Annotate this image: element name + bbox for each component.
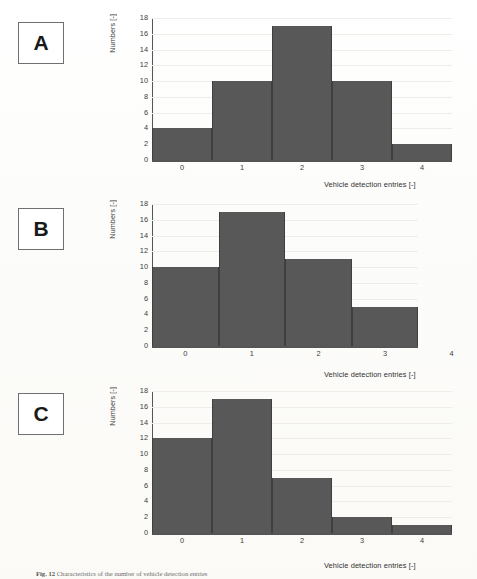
- x-tick-label: 4: [392, 536, 452, 545]
- y-tick-label: 2: [144, 141, 148, 148]
- histogram-bar: [212, 399, 272, 533]
- x-tick-label: 2: [272, 536, 332, 545]
- x-tick-label: 1: [219, 349, 286, 358]
- plot-area-a: [152, 18, 452, 160]
- x-axis-line: [152, 160, 452, 162]
- histogram-bar: [392, 144, 452, 160]
- x-axis-title: Vehicle detection entries [-]: [324, 561, 416, 570]
- y-tick-label: 2: [144, 514, 148, 521]
- figure-panel-a: A Numbers [-] 181614121086420 01234 Vehi…: [0, 0, 477, 189]
- plot-area-b: [152, 204, 418, 346]
- x-axis-title: Vehicle detection entries [-]: [324, 180, 416, 189]
- figure-panel-b: B Numbers [-] 181614121086420 01234 Vehi…: [0, 190, 477, 379]
- histogram-bar: [152, 267, 219, 346]
- x-tick-label: 4: [392, 163, 452, 172]
- x-tick-label: 0: [152, 349, 219, 358]
- histogram-chart-a: Numbers [-] 181614121086420 01234 Vehicl…: [110, 12, 470, 187]
- x-tick-label: 2: [285, 349, 352, 358]
- x-tick-label: 4: [418, 349, 477, 358]
- x-tick-label: 3: [352, 349, 419, 358]
- x-tick-label: 3: [332, 536, 392, 545]
- histogram-chart-c: Numbers [-] 181614121086420 01234 Vehicl…: [110, 385, 470, 567]
- y-tick-label: 18: [140, 200, 148, 207]
- y-tick-label: 10: [140, 77, 148, 84]
- histogram-bar: [272, 478, 332, 533]
- y-tick-label: 14: [140, 46, 148, 53]
- histogram-bar: [272, 26, 332, 160]
- y-tick-label: 16: [140, 30, 148, 37]
- figure-caption-label: Fig. 12: [36, 570, 55, 577]
- y-axis-title: Numbers [-]: [108, 200, 120, 239]
- bar-series-a: [152, 18, 452, 160]
- y-tick-label: 6: [144, 295, 148, 302]
- histogram-bar: [152, 128, 212, 160]
- figure-caption: Fig. 12 Characteristics of the number of…: [36, 570, 456, 577]
- x-tick-label: 2: [272, 163, 332, 172]
- y-axis-title: Numbers [-]: [108, 387, 120, 426]
- y-tick-label: 2: [144, 327, 148, 334]
- x-axis-ticks-b: 01234: [152, 349, 477, 358]
- x-tick-label: 0: [152, 163, 212, 172]
- histogram-bar: [332, 517, 392, 533]
- y-tick-label: 8: [144, 466, 148, 473]
- x-tick-label: 1: [212, 163, 272, 172]
- y-tick-label: 0: [144, 156, 148, 163]
- y-tick-label: 14: [140, 232, 148, 239]
- histogram-chart-b: Numbers [-] 181614121086420 01234 Vehicl…: [110, 198, 470, 376]
- y-tick-label: 14: [140, 419, 148, 426]
- y-tick-label: 0: [144, 529, 148, 536]
- y-tick-label: 6: [144, 482, 148, 489]
- y-axis-title: Numbers [-]: [108, 14, 120, 53]
- figure-panel-c: C Numbers [-] 181614121086420 01234 Vehi…: [0, 381, 477, 570]
- y-tick-label: 4: [144, 125, 148, 132]
- y-tick-label: 12: [140, 435, 148, 442]
- y-axis-ticks-a: 181614121086420: [124, 18, 150, 160]
- panel-label-b: B: [18, 208, 64, 250]
- panel-label-a: A: [18, 22, 64, 64]
- x-tick-label: 3: [332, 163, 392, 172]
- y-tick-label: 18: [140, 14, 148, 21]
- x-axis-line: [152, 533, 452, 535]
- x-tick-label: 1: [212, 536, 272, 545]
- panel-label-c: C: [18, 393, 64, 435]
- plot-area-c: [152, 391, 452, 533]
- figure-caption-text: Characteristics of the number of vehicle…: [57, 570, 208, 577]
- y-tick-label: 12: [140, 62, 148, 69]
- bar-series-b: [152, 204, 418, 346]
- bar-series-c: [152, 391, 452, 533]
- y-tick-label: 4: [144, 498, 148, 505]
- histogram-bar: [285, 259, 352, 346]
- y-tick-label: 10: [140, 263, 148, 270]
- x-axis-ticks-c: 01234: [152, 536, 452, 545]
- histogram-bar: [392, 525, 452, 533]
- x-tick-label: 0: [152, 536, 212, 545]
- histogram-bar: [152, 438, 212, 533]
- y-tick-label: 8: [144, 279, 148, 286]
- y-tick-label: 4: [144, 311, 148, 318]
- histogram-bar: [332, 81, 392, 160]
- y-tick-label: 6: [144, 109, 148, 116]
- histogram-bar: [352, 307, 419, 346]
- y-tick-label: 8: [144, 93, 148, 100]
- x-axis-title: Vehicle detection entries [-]: [324, 370, 416, 379]
- y-tick-label: 16: [140, 403, 148, 410]
- y-axis-ticks-b: 181614121086420: [124, 204, 150, 346]
- y-tick-label: 12: [140, 248, 148, 255]
- histogram-bar: [219, 212, 286, 346]
- y-tick-label: 10: [140, 450, 148, 457]
- histogram-bar: [212, 81, 272, 160]
- x-axis-line: [152, 346, 418, 348]
- y-axis-ticks-c: 181614121086420: [124, 391, 150, 533]
- y-tick-label: 16: [140, 216, 148, 223]
- y-tick-label: 18: [140, 387, 148, 394]
- y-tick-label: 0: [144, 342, 148, 349]
- x-axis-ticks-a: 01234: [152, 163, 452, 172]
